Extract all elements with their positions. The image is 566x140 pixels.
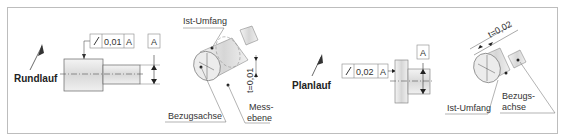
datum-arrow-icon — [151, 65, 157, 70]
tolerance-frame: 0,01 A — [90, 34, 134, 48]
svg-text:t=0,02: t=0,02 — [486, 19, 513, 40]
svg-text:A: A — [151, 37, 157, 47]
svg-text:A: A — [126, 37, 132, 47]
svg-text:0,02: 0,02 — [356, 67, 374, 77]
ist-umfang-label: Ist-Umfang — [183, 16, 227, 26]
messebene-label-line1: Mess- — [249, 102, 274, 112]
ist-umfang-label: Ist-Umfang — [447, 103, 491, 113]
svg-text:t=0,01: t=0,01 — [245, 68, 255, 93]
svg-text:A: A — [420, 48, 426, 58]
svg-text:0,01: 0,01 — [104, 37, 122, 47]
pointer-arrow-icon — [30, 44, 44, 70]
shaft-stub — [408, 69, 430, 94]
shaft-small-diameter — [103, 65, 140, 84]
flange — [395, 60, 408, 103]
datum-box: A — [417, 45, 429, 59]
planlauf-title: Planlauf — [292, 80, 332, 91]
messebene-label-line2: ebene — [247, 113, 272, 123]
shaft-large-diameter — [64, 59, 103, 91]
datum-box: A — [148, 34, 160, 48]
bezugsachse-label-line1: Bezugs- — [502, 91, 535, 101]
runout-diagram: Rundlauf 0,01 A A — [0, 0, 566, 140]
svg-text:A: A — [380, 67, 386, 77]
rundlauf-title: Rundlauf — [14, 73, 58, 84]
planlauf-section: Planlauf 0,02 A A — [292, 19, 555, 114]
bezugsachse-label: Bezugsachse — [168, 111, 222, 121]
pointer-arrow-icon — [312, 54, 323, 76]
bezugsachse-label-line2: achse — [502, 102, 526, 112]
rundlauf-section: Rundlauf 0,01 A A — [14, 16, 274, 123]
tolerance-frame: 0,02 A — [342, 64, 388, 78]
